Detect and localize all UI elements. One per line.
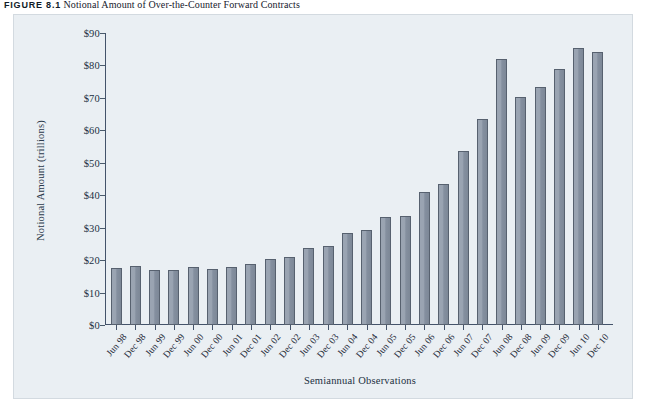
bars-container (106, 33, 614, 325)
y-axis-tick-label: $70 (54, 92, 100, 103)
x-axis-tick (386, 325, 387, 330)
x-axis-tick (174, 325, 175, 330)
bar (265, 259, 276, 325)
bar (380, 217, 391, 325)
x-axis-tick (598, 325, 599, 330)
bar (592, 52, 603, 325)
bar (438, 184, 449, 325)
x-axis-tick (212, 325, 213, 330)
x-axis-tick (367, 325, 368, 330)
chart-panel: Notional Amount (trillions) $0$10$20$30$… (13, 14, 633, 399)
y-axis-tick-label: $90 (54, 28, 100, 39)
bar (477, 119, 488, 325)
bar (226, 267, 237, 325)
bar (400, 216, 411, 325)
bar (496, 59, 507, 325)
x-axis-tick (270, 325, 271, 330)
bar (284, 257, 295, 325)
figure-title: Notional Amount of Over-the-Counter Forw… (64, 0, 300, 10)
bar (535, 87, 546, 325)
bar (130, 266, 141, 325)
y-axis-tick-label: $80 (54, 60, 100, 71)
x-axis-tick (444, 325, 445, 330)
figure-caption: FIGURE 8.1 Notional Amount of Over-the-C… (4, 0, 300, 10)
bar (342, 233, 353, 325)
bar (188, 267, 199, 325)
x-axis-tick (540, 325, 541, 330)
x-axis-tick (482, 325, 483, 330)
x-axis-tick (116, 325, 117, 330)
bar (303, 248, 314, 325)
y-axis-tick-label: $40 (54, 190, 100, 201)
y-axis-tick-label: $20 (54, 255, 100, 266)
plot-wrapper: Notional Amount (trillions) $0$10$20$30$… (14, 15, 634, 400)
x-axis-tick (463, 325, 464, 330)
figure-label: FIGURE 8.1 (4, 0, 61, 10)
x-axis-tick (405, 325, 406, 330)
y-axis-tick-label: $50 (54, 157, 100, 168)
y-axis-labels: $0$10$20$30$40$50$60$70$80$90 (54, 15, 100, 400)
x-axis-tick (521, 325, 522, 330)
y-axis-tick-label: $60 (54, 125, 100, 136)
x-axis-tick (579, 325, 580, 330)
bar (573, 48, 584, 325)
x-axis-tick (232, 325, 233, 330)
bar (149, 270, 160, 325)
bar (207, 269, 218, 325)
bar (245, 264, 256, 325)
y-axis-tick-label: $0 (54, 320, 100, 331)
x-axis-tick (155, 325, 156, 330)
y-axis-title: Notional Amount (trillions) (35, 81, 46, 281)
x-axis-tick (309, 325, 310, 330)
x-axis-tick (347, 325, 348, 330)
x-axis-title: Semiannual Observations (106, 375, 614, 386)
bar (361, 230, 372, 325)
bar (111, 268, 122, 325)
bar (323, 246, 334, 325)
bar (515, 97, 526, 325)
y-axis-tick (100, 325, 105, 326)
x-axis-tick (502, 325, 503, 330)
bar (458, 151, 469, 325)
x-axis-tick (328, 325, 329, 330)
bar (554, 69, 565, 325)
x-axis-tick (424, 325, 425, 330)
x-axis-tick (193, 325, 194, 330)
x-axis-tick (559, 325, 560, 330)
bar (168, 270, 179, 325)
figure-root: FIGURE 8.1 Notional Amount of Over-the-C… (0, 0, 646, 408)
y-axis-tick-label: $10 (54, 287, 100, 298)
x-axis-tick (290, 325, 291, 330)
x-axis-tick (251, 325, 252, 330)
y-axis-tick-label: $30 (54, 222, 100, 233)
bar (419, 192, 430, 325)
x-axis-tick (135, 325, 136, 330)
